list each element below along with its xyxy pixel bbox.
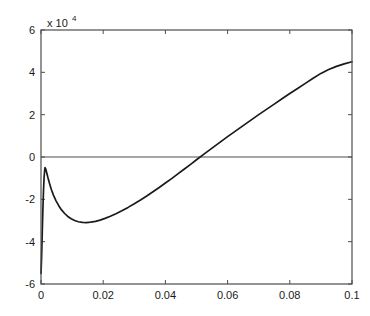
x-tick-label: 0.02 [92,289,113,301]
y-axis-multiplier-exponent: 4 [72,14,77,23]
chart-figure: x 10 4 00.020.040.060.080.1 -6-4-20246 [0,0,370,316]
y-tick-label: -2 [25,193,35,205]
y-tick-label: -6 [25,278,35,290]
y-tick-label: 2 [29,109,35,121]
y-tick-label: 4 [29,66,35,78]
x-tick-label: 0.04 [155,289,176,301]
line-chart: x 10 4 00.020.040.060.080.1 -6-4-20246 [0,0,370,316]
y-tick-label: 0 [29,151,35,163]
x-tick-label: 0.06 [217,289,238,301]
x-tick-label: 0.08 [279,289,300,301]
y-axis-multiplier-base: x 10 [47,17,68,29]
y-tick-label: -4 [25,236,35,248]
x-tick-label: 0.1 [344,289,359,301]
x-tick-label: 0 [38,289,44,301]
chart-background [0,0,370,316]
y-tick-label: 6 [29,24,35,36]
